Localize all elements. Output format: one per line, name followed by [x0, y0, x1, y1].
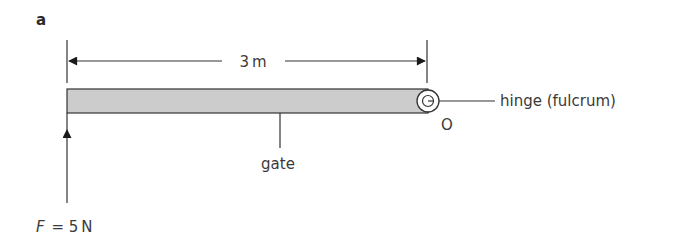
pivot-point-label: O: [441, 116, 453, 134]
force-value: 5 N: [69, 218, 93, 236]
gate-beam: [67, 89, 428, 113]
force-equals: =: [51, 218, 64, 236]
force-symbol: F: [36, 218, 45, 236]
force-label: F = 5 N: [36, 218, 93, 236]
dimension-label: 3 m: [239, 53, 266, 71]
lever-gate-diagram: a 3 m hinge (fulcrum) O gate F = 5 N: [0, 0, 677, 243]
panel-label: a: [36, 11, 46, 29]
hinge-icon: [417, 90, 439, 112]
gate-label: gate: [261, 155, 295, 173]
hinge-label: hinge (fulcrum): [500, 92, 616, 110]
